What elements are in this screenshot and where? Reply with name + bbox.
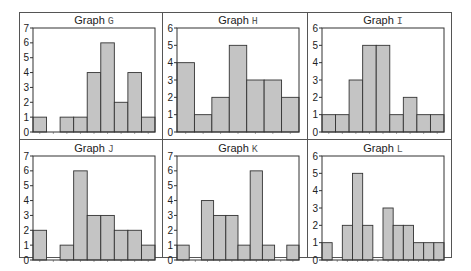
histogram-bars: [33, 171, 155, 260]
y-tick-label: 1: [312, 109, 318, 120]
y-tick-label: 4: [23, 195, 29, 206]
histogram-bar: [212, 97, 229, 132]
histogram-bar: [322, 243, 332, 260]
graph-title: Graph K: [218, 142, 258, 155]
y-tick-label: 5: [312, 168, 318, 179]
histogram-bar: [414, 243, 424, 260]
y-tick-label: 3: [23, 82, 29, 93]
histogram-bar: [128, 230, 142, 260]
histogram-bar: [114, 102, 128, 132]
histogram-bar: [101, 43, 115, 132]
graph-j-panel: Graph J01234567: [19, 140, 162, 267]
histogram-bar: [60, 117, 74, 132]
y-tick-label: 3: [23, 210, 29, 221]
histogram-bar: [229, 45, 246, 132]
y-tick-label: 2: [23, 225, 29, 236]
y-tick-label: 0: [167, 255, 173, 266]
y-tick-label: 0: [23, 255, 29, 266]
y-tick-label: 5: [23, 180, 29, 191]
y-tick-label: 3: [167, 75, 173, 86]
graph-title: Graph J: [74, 142, 114, 155]
y-tick-label: 6: [167, 23, 173, 34]
histogram-bar: [262, 245, 274, 260]
histogram-bar: [342, 225, 352, 260]
histogram-bar: [363, 45, 377, 132]
y-tick-label: 2: [167, 225, 173, 236]
histogram-bar: [87, 73, 101, 132]
histogram-bar: [336, 115, 350, 132]
graph-i-panel: Graph I0123456: [308, 12, 451, 139]
histogram-bar: [353, 173, 363, 260]
y-tick-label: 6: [23, 37, 29, 48]
y-tick-label: 7: [23, 23, 29, 34]
histogram-bar: [177, 63, 194, 132]
histogram-bar: [226, 215, 238, 260]
histogram-bar: [141, 245, 155, 260]
y-tick-label: 2: [23, 97, 29, 108]
histogram-bar: [403, 97, 417, 132]
histogram-bar: [128, 73, 142, 132]
histogram-bar: [434, 243, 444, 260]
histogram-bar: [430, 115, 444, 132]
histogram-bar: [214, 215, 226, 260]
y-tick-label: 7: [167, 151, 173, 162]
histogram-bar: [250, 171, 262, 260]
y-tick-label: 3: [312, 75, 318, 86]
y-tick-label: 1: [312, 237, 318, 248]
y-tick-label: 6: [23, 165, 29, 176]
y-tick-label: 1: [23, 112, 29, 123]
y-tick-label: 6: [312, 23, 318, 34]
y-tick-label: 6: [312, 151, 318, 162]
histogram-bar: [363, 225, 373, 260]
y-tick-label: 4: [23, 67, 29, 78]
y-tick-label: 3: [312, 203, 318, 214]
histogram-bars: [177, 171, 299, 260]
histogram-bars: [33, 43, 155, 132]
y-tick-label: 2: [312, 92, 318, 103]
graph-title: Graph L: [363, 142, 403, 155]
histogram-bar: [264, 80, 281, 132]
histogram-bar: [282, 97, 299, 132]
histogram-bar: [60, 245, 74, 260]
histogram-bar: [194, 115, 211, 132]
y-tick-label: 4: [167, 195, 173, 206]
y-tick-label: 5: [167, 40, 173, 51]
histogram-bar: [101, 215, 115, 260]
y-tick-label: 7: [23, 151, 29, 162]
y-tick-label: 3: [167, 210, 173, 221]
graph-l-panel: Graph L0123456: [308, 140, 451, 267]
histogram-bar: [424, 243, 434, 260]
graph-title: Graph G: [74, 14, 114, 27]
histogram-bar: [33, 117, 47, 132]
y-tick-label: 0: [23, 127, 29, 138]
y-tick-label: 2: [167, 92, 173, 103]
histogram-bar: [287, 245, 299, 260]
histogram-bar: [417, 115, 431, 132]
histogram-bar: [74, 171, 88, 260]
histogram-bars: [177, 45, 299, 132]
histogram-bar: [238, 245, 250, 260]
graph-h-panel: Graph H0123456: [163, 12, 306, 139]
y-tick-label: 5: [23, 52, 29, 63]
y-tick-label: 0: [167, 127, 173, 138]
graph-title: Graph H: [218, 14, 258, 27]
y-tick-label: 0: [312, 127, 318, 138]
histogram-bar: [349, 80, 363, 132]
y-tick-label: 4: [312, 57, 318, 68]
y-tick-label: 5: [167, 180, 173, 191]
histogram-bar: [247, 80, 264, 132]
histogram-bar: [376, 45, 390, 132]
histogram-bars: [322, 45, 444, 132]
y-tick-label: 6: [167, 165, 173, 176]
histogram-bar: [322, 115, 336, 132]
histogram-bar: [177, 245, 189, 260]
y-tick-label: 0: [312, 255, 318, 266]
histogram-bar: [201, 201, 213, 260]
histogram-bar: [141, 117, 155, 132]
y-tick-label: 4: [167, 57, 173, 68]
y-tick-label: 5: [312, 40, 318, 51]
histogram-bar: [114, 230, 128, 260]
histogram-bar: [87, 215, 101, 260]
histogram-bar: [33, 230, 47, 260]
histogram-bar: [403, 225, 413, 260]
